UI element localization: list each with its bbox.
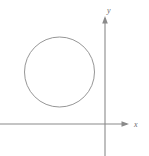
- x-axis-label: x: [133, 120, 138, 129]
- y-axis-label: y: [106, 6, 111, 15]
- figure-container: x y: [0, 0, 149, 156]
- y-axis-arrowhead: [102, 16, 108, 24]
- x-axis-arrowhead: [122, 121, 130, 127]
- circle-shape: [25, 37, 95, 107]
- coordinate-plane-figure: x y: [0, 0, 149, 156]
